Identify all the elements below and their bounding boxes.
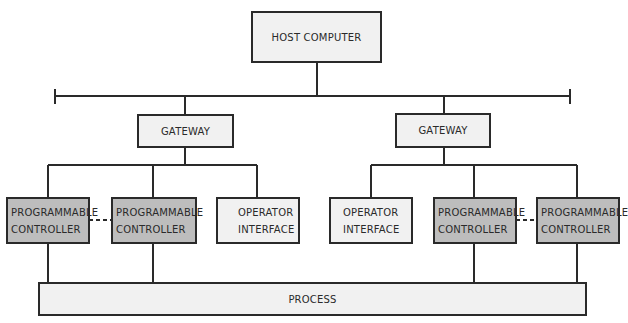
- host-computer-label: HOST COMPUTER: [272, 29, 362, 46]
- programmable-controller-2-box: PROGRAMMABLE CONTROLLER: [111, 197, 197, 244]
- pc4-line1: PROGRAMMABLE: [541, 204, 628, 221]
- pc2-line2: CONTROLLER: [116, 221, 186, 238]
- pc1-line2: CONTROLLER: [11, 221, 81, 238]
- programmable-controller-3-box: PROGRAMMABLE CONTROLLER: [433, 197, 517, 244]
- gateway-right-label: GATEWAY: [418, 122, 467, 139]
- oi2-line2: INTERFACE: [343, 221, 399, 238]
- programmable-controller-1-box: PROGRAMMABLE CONTROLLER: [6, 197, 90, 244]
- process-box: PROCESS: [38, 282, 587, 316]
- process-label: PROCESS: [288, 291, 336, 308]
- oi1-line1: OPERATOR: [238, 204, 293, 221]
- oi2-line1: OPERATOR: [343, 204, 398, 221]
- gateway-left-box: GATEWAY: [137, 114, 234, 148]
- pc3-line1: PROGRAMMABLE: [438, 204, 525, 221]
- host-computer-box: HOST COMPUTER: [251, 11, 382, 63]
- operator-interface-2-box: OPERATOR INTERFACE: [329, 197, 413, 244]
- pc1-line1: PROGRAMMABLE: [11, 204, 98, 221]
- operator-interface-1-box: OPERATOR INTERFACE: [216, 197, 300, 244]
- pc3-line2: CONTROLLER: [438, 221, 508, 238]
- pc2-line1: PROGRAMMABLE: [116, 204, 203, 221]
- gateway-right-box: GATEWAY: [395, 113, 491, 148]
- gateway-left-label: GATEWAY: [161, 123, 210, 140]
- programmable-controller-4-box: PROGRAMMABLE CONTROLLER: [536, 197, 620, 244]
- pc4-line2: CONTROLLER: [541, 221, 611, 238]
- oi1-line2: INTERFACE: [238, 221, 294, 238]
